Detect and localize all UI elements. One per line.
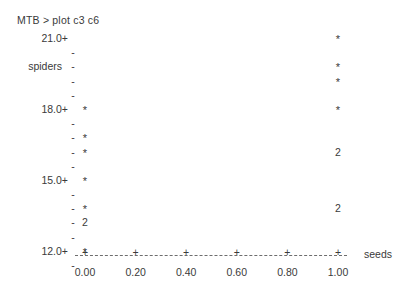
character-scatter-plot: 21.0+*-spiders-*-*-18.0+**--*-*2-15.0+*-… [0, 32, 413, 282]
y-axis-tick-mark: - [68, 146, 78, 158]
data-point: * [79, 202, 91, 217]
x-axis-tick-mark: + [181, 247, 191, 257]
data-point: * [79, 146, 91, 161]
x-axis-tick-mark: + [131, 247, 141, 257]
x-axis-tick-labels: 0.000.200.400.600.801.00 [0, 266, 413, 280]
x-axis-tick-label: 0.60 [217, 266, 257, 278]
plot-row: - [0, 89, 413, 103]
plot-row: -* [0, 131, 413, 145]
plot-row: -* [0, 75, 413, 89]
plot-row: -*2 [0, 202, 413, 216]
plot-row: - [0, 117, 413, 131]
data-point: * [79, 131, 91, 146]
x-axis-tick-label: 0.80 [267, 266, 307, 278]
y-axis-tick-label: 21.0+ [0, 32, 68, 44]
data-point-cluster: 2 [332, 146, 344, 158]
data-point-cluster: 2 [332, 202, 344, 214]
x-axis-tick-label: 1.00 [318, 266, 358, 278]
x-axis-tick-mark: + [232, 247, 242, 257]
x-axis-tick-label: 0.00 [65, 266, 105, 278]
y-axis-tick-mark: - [68, 231, 78, 243]
y-axis-tick-mark: - [68, 216, 78, 228]
y-axis-tick-mark: - [68, 160, 78, 172]
y-axis-tick-label: 15.0+ [0, 174, 68, 186]
y-axis-label: spiders [0, 60, 62, 72]
y-axis-label-slot: spiders [0, 60, 62, 74]
x-axis-tick-mark: + [80, 247, 90, 257]
data-point-cluster: 2 [79, 216, 91, 228]
data-point: * [332, 75, 344, 90]
y-axis-tick-label: 18.0+ [0, 103, 68, 115]
y-axis-tick-mark: - [68, 202, 78, 214]
plot-row: - [0, 160, 413, 174]
plot-row: spiders-* [0, 60, 413, 74]
y-axis-tick-mark: - [68, 131, 78, 143]
x-axis-tick-label: 0.20 [116, 266, 156, 278]
data-point: * [332, 32, 344, 47]
data-point: * [332, 103, 344, 118]
plot-row: - [0, 231, 413, 245]
x-axis-tick-label: 0.40 [166, 266, 206, 278]
y-axis-tick-mark: - [68, 117, 78, 129]
plot-row: - [0, 188, 413, 202]
x-axis-label: seeds [364, 248, 392, 260]
data-point: * [79, 174, 91, 189]
data-point: * [332, 60, 344, 75]
plot-row: 18.0+** [0, 103, 413, 117]
y-axis-tick-mark: - [68, 188, 78, 200]
plot-row: - [0, 46, 413, 60]
x-axis-tick-mark: + [333, 247, 343, 257]
data-point: * [79, 103, 91, 118]
x-axis-line [75, 255, 347, 256]
y-axis-tick-mark: - [68, 75, 78, 87]
y-axis-tick-mark: - [68, 89, 78, 101]
x-axis-tick-mark: + [282, 247, 292, 257]
y-axis-tick-mark: - [68, 46, 78, 58]
plot-row: -2 [0, 216, 413, 230]
plot-row: -*2 [0, 146, 413, 160]
plot-row: 21.0+* [0, 32, 413, 46]
plot-row: 15.0+* [0, 174, 413, 188]
terminal-prompt-line: MTB > plot c3 c6 [17, 14, 99, 26]
y-axis-tick-mark: - [68, 60, 78, 72]
